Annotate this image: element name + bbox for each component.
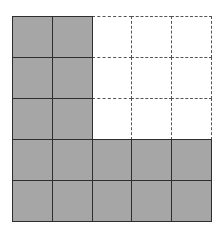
empty-cell xyxy=(131,16,172,58)
shaded-cell xyxy=(12,16,53,58)
empty-cell xyxy=(171,16,212,58)
empty-cell xyxy=(131,57,172,99)
empty-cell xyxy=(92,16,132,58)
empty-cell xyxy=(131,98,172,140)
shaded-cell xyxy=(92,139,132,181)
shaded-cell xyxy=(12,98,53,140)
empty-cell xyxy=(92,57,132,99)
shaded-cell xyxy=(171,139,212,181)
shaded-cell xyxy=(52,16,93,58)
shaded-cell xyxy=(52,180,93,222)
grid-diagram xyxy=(12,16,211,221)
shaded-cell xyxy=(131,139,172,181)
empty-cell xyxy=(92,98,132,140)
empty-cell xyxy=(171,98,212,140)
shaded-cell xyxy=(52,98,93,140)
empty-cell xyxy=(171,57,212,99)
shaded-cell xyxy=(131,180,172,222)
shaded-cell xyxy=(52,139,93,181)
shaded-cell xyxy=(171,180,212,222)
shaded-cell xyxy=(92,180,132,222)
shaded-cell xyxy=(12,139,53,181)
shaded-cell xyxy=(12,57,53,99)
shaded-cell xyxy=(12,180,53,222)
shaded-cell xyxy=(52,57,93,99)
